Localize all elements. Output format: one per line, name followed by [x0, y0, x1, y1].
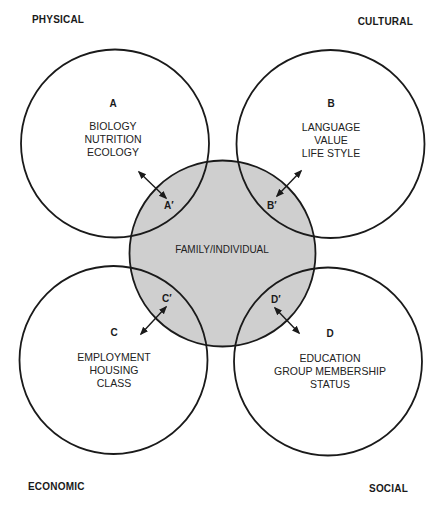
label-a-prime: A′	[164, 200, 174, 211]
label-economic: ECONOMIC	[28, 481, 85, 492]
circle-c-letter: C	[110, 327, 117, 338]
circle-b-item: VALUE	[314, 134, 348, 146]
circle-a-letter: A	[109, 98, 116, 109]
label-d-prime: D′	[271, 294, 281, 305]
circle-a-item: BIOLOGY	[89, 120, 136, 132]
circle-d-item: EDUCATION	[299, 352, 360, 364]
label-social: SOCIAL	[369, 483, 408, 494]
circle-d-letter: D	[326, 328, 333, 339]
diagram-canvas: PHYSICAL CULTURAL ECONOMIC SOCIAL A BIOL…	[0, 0, 437, 508]
circle-b-letter: B	[327, 98, 334, 109]
circle-a-item: NUTRITION	[84, 133, 141, 145]
label-c-prime: C′	[162, 293, 172, 304]
label-b-prime: B′	[267, 200, 277, 211]
label-cultural: CULTURAL	[358, 16, 413, 27]
circle-c-item: EMPLOYMENT	[77, 351, 151, 363]
label-physical: PHYSICAL	[32, 14, 84, 25]
center-label: FAMILY/INDIVIDUAL	[175, 244, 269, 255]
circle-a-item: ECOLOGY	[87, 146, 139, 158]
circle-d-item: STATUS	[310, 378, 350, 390]
circle-b-item: LIFE STYLE	[302, 147, 360, 159]
circle-c-item: HOUSING	[89, 364, 138, 376]
circle-c-item: CLASS	[97, 377, 131, 389]
circle-b-item: LANGUAGE	[302, 121, 360, 133]
circle-d-item: GROUP MEMBERSHIP	[274, 365, 386, 377]
